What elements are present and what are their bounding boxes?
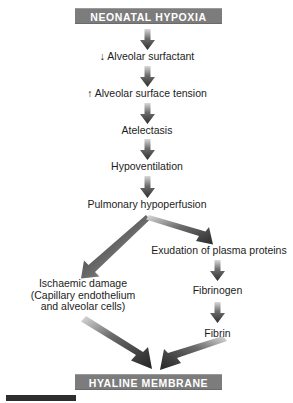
ischaemic-damage-line-3: and alveolar cells) (8, 301, 158, 313)
node-ischaemic-damage: Ischaemic damage (Capillary endothelium … (8, 278, 158, 313)
outcome-banner-hyaline-membrane: HYALINE MEMBRANE (75, 374, 222, 390)
arrow-fibrinogen-to-fibrin (210, 302, 225, 323)
arrow-hypoventilation-to-hypoperfusion (140, 176, 155, 198)
arrow-atelectasis-to-hypoventilation (140, 139, 155, 160)
arrow-surfactant-to-tension (140, 66, 155, 87)
node-exudation-of-plasma-proteins: Exudation of plasma proteins (148, 245, 290, 257)
node-alveolar-surfactant: ↓ Alveolar surfactant (47, 51, 247, 63)
title-banner-neonatal-hypoxia: NEONATAL HYPOXIA (75, 8, 222, 24)
arrow-ischaemic-to-hyaline (81, 316, 152, 369)
arrow-tension-to-atelectasis (140, 103, 155, 124)
node-fibrinogen: Fibrinogen (167, 285, 268, 297)
node-atelectasis: Atelectasis (47, 125, 247, 137)
footer-rule (6, 395, 76, 401)
node-alveolar-surface-tension: ↑ Alveolar surface tension (47, 88, 247, 100)
node-pulmonary-hypoperfusion: Pulmonary hypoperfusion (42, 199, 252, 211)
arrow-exudation-to-fibrinogen (210, 260, 225, 281)
arrow-fibrin-to-hyaline (160, 336, 227, 370)
flowchart-canvas: NEONATAL HYPOXIA ↓ Alveolar surfactant ↑… (0, 0, 293, 403)
node-hypoventilation: Hypoventilation (47, 161, 247, 173)
node-fibrin: Fibrin (167, 328, 268, 340)
ischaemic-damage-line-1: Ischaemic damage (8, 278, 158, 290)
arrow-hypoperfusion-to-ischaemic (81, 215, 150, 279)
arrow-hypoperfusion-to-exudation (146, 215, 213, 245)
arrow-hypoxia-to-surfactant (140, 29, 155, 50)
